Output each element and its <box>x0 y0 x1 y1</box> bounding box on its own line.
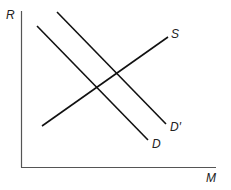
demand-curve-d-prime <box>57 12 166 124</box>
supply-demand-diagram <box>0 0 231 190</box>
x-axis-label: M <box>206 172 216 184</box>
curve-label-d: D <box>152 138 161 150</box>
curve-label-s: S <box>171 28 179 40</box>
curve-label-d-prime: D′ <box>170 121 181 133</box>
demand-curve-d <box>37 26 148 140</box>
y-axis-label: R <box>6 9 15 21</box>
